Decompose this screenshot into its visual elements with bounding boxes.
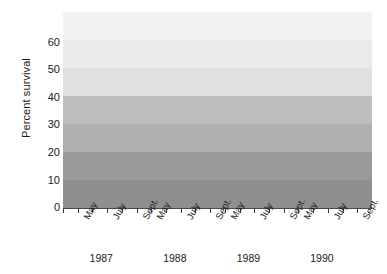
plot-area — [63, 12, 372, 208]
background-band-30-40 — [63, 96, 372, 124]
x-tick — [328, 208, 329, 213]
y-tick-30: 30 — [34, 119, 60, 130]
year-label-1988: 1988 — [145, 252, 205, 264]
y-tick-40: 40 — [34, 92, 60, 103]
y-axis-label: Percent survival — [20, 28, 32, 168]
background-band-10-20 — [63, 152, 372, 180]
background-band-60-70 — [63, 12, 372, 40]
y-axis-tick-labels: 60 50 40 30 20 10 0 — [32, 0, 60, 274]
y-tick-0: 0 — [34, 202, 60, 213]
y-tick-60: 60 — [34, 37, 60, 48]
x-tick — [107, 208, 108, 213]
background-band-40-50 — [63, 68, 372, 96]
x-tick — [284, 208, 285, 213]
x-tick — [357, 208, 358, 213]
y-tick-50: 50 — [34, 64, 60, 75]
y-tick-20: 20 — [34, 147, 60, 158]
y-tick-10: 10 — [34, 175, 60, 186]
background-band-50-60 — [63, 40, 372, 68]
x-tick — [210, 208, 211, 213]
x-tick — [254, 208, 255, 213]
background-band-0-10 — [63, 180, 372, 208]
year-label-1989: 1989 — [218, 252, 278, 264]
x-tick — [63, 208, 64, 213]
x-tick — [137, 208, 138, 213]
x-tick — [78, 208, 79, 213]
background-band-20-30 — [63, 124, 372, 152]
chart-figure: Percent survival 60 50 40 30 20 10 0 May… — [0, 0, 387, 274]
year-label-1987: 1987 — [71, 252, 131, 264]
x-tick — [181, 208, 182, 213]
year-label-1990: 1990 — [292, 252, 352, 264]
